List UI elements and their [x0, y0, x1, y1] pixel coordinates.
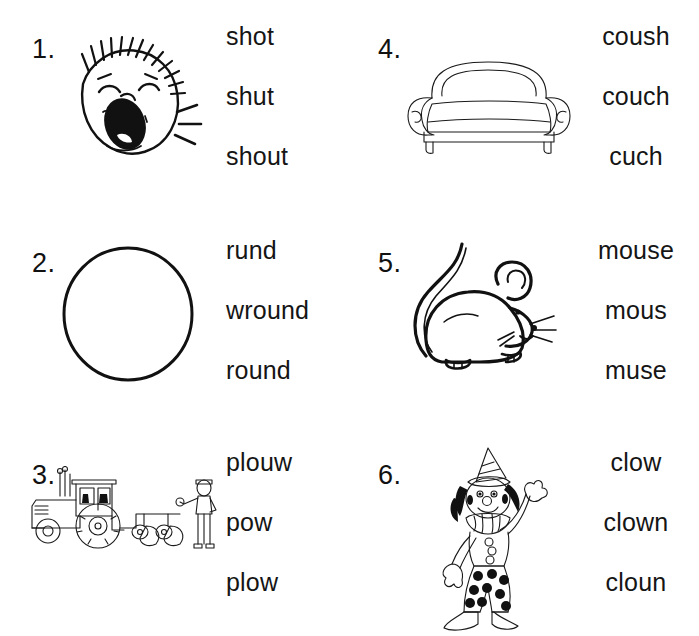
item-number: 2. — [32, 250, 56, 277]
word-option[interactable]: plouw — [226, 450, 292, 475]
word-option[interactable]: mous — [605, 298, 667, 323]
worksheet-item-6: 6. — [352, 440, 699, 636]
worksheet-item-1: 1. — [0, 14, 350, 224]
word-option[interactable]: couch — [602, 84, 670, 109]
word-option[interactable]: cuch — [609, 144, 663, 169]
circle-illustration — [58, 242, 203, 387]
word-option[interactable]: coush — [602, 24, 670, 49]
item-number: 5. — [378, 250, 402, 277]
word-choices-1: shot shut shout — [226, 24, 288, 169]
word-option[interactable]: round — [226, 358, 291, 383]
item-number: 4. — [378, 36, 402, 63]
word-option[interactable]: wround — [226, 298, 309, 323]
word-option[interactable]: pow — [226, 510, 272, 535]
word-option[interactable]: mouse — [598, 238, 674, 263]
word-option[interactable]: shot — [226, 24, 274, 49]
worksheet-item-4: 4. — [352, 14, 699, 224]
worksheet-item-3: 3. — [0, 440, 350, 636]
word-option[interactable]: cloun — [606, 570, 667, 595]
word-choices-6: clow clown cloun — [580, 450, 692, 595]
couch-illustration — [402, 40, 577, 160]
word-option[interactable]: clown — [604, 510, 669, 535]
tractor-with-plow-illustration — [20, 466, 220, 556]
worksheet-page: 1. — [0, 0, 699, 636]
word-choices-5: mouse mous muse — [580, 238, 692, 383]
word-choices-2: rund wround round — [226, 238, 309, 383]
word-option[interactable]: plow — [226, 570, 278, 595]
word-choices-4: coush couch cuch — [580, 24, 692, 169]
worksheet-item-5: 5. — [352, 228, 699, 438]
clown-illustration — [430, 442, 560, 632]
shouting-face-illustration — [55, 32, 205, 167]
word-option[interactable]: shut — [226, 84, 274, 109]
mouse-illustration — [402, 236, 562, 386]
item-number: 1. — [32, 36, 56, 63]
word-option[interactable]: clow — [611, 450, 662, 475]
word-option[interactable]: shout — [226, 144, 288, 169]
word-option[interactable]: rund — [226, 238, 277, 263]
worksheet-item-2: 2. rund wround round — [0, 228, 350, 438]
word-choices-3: plouw pow plow — [226, 450, 292, 595]
word-option[interactable]: muse — [605, 358, 667, 383]
item-number: 6. — [378, 462, 402, 489]
